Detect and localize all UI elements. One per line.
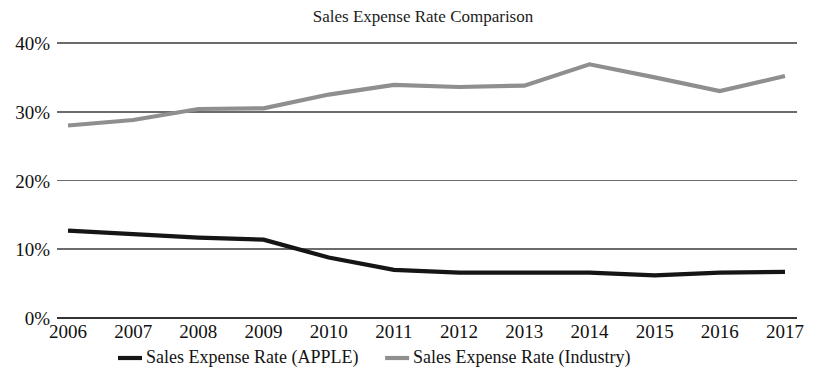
x-axis-tick-label: 2009 xyxy=(245,321,283,342)
chart-title: Sales Expense Rate Comparison xyxy=(313,7,534,26)
y-axis-tick-label: 30% xyxy=(15,102,50,123)
y-axis-tick-label: 20% xyxy=(15,171,50,192)
x-axis-tick-label: 2008 xyxy=(179,321,217,342)
legend-label-industry: Sales Expense Rate (Industry) xyxy=(413,347,630,368)
x-axis-tick-label: 2015 xyxy=(636,321,674,342)
x-axis-tick-label: 2006 xyxy=(49,321,87,342)
x-axis-tick-label: 2007 xyxy=(114,321,152,342)
x-axis-tick-label: 2013 xyxy=(505,321,543,342)
x-axis-tick-label: 2016 xyxy=(701,321,739,342)
x-axis-tick-label: 2011 xyxy=(375,321,412,342)
y-axis-tick-label: 40% xyxy=(15,33,50,54)
legend-label-apple: Sales Expense Rate (APPLE) xyxy=(146,347,358,368)
y-axis-tick-label: 10% xyxy=(15,239,50,260)
y-axis-tick-label: 0% xyxy=(25,308,51,329)
x-axis-tick-label: 2017 xyxy=(766,321,804,342)
sales-expense-rate-line-chart: Sales Expense Rate Comparison 0%10%20%30… xyxy=(0,0,818,378)
x-axis-tick-label: 2014 xyxy=(570,321,609,342)
x-axis-tick-label: 2010 xyxy=(310,321,348,342)
x-axis-tick-label: 2012 xyxy=(440,321,478,342)
